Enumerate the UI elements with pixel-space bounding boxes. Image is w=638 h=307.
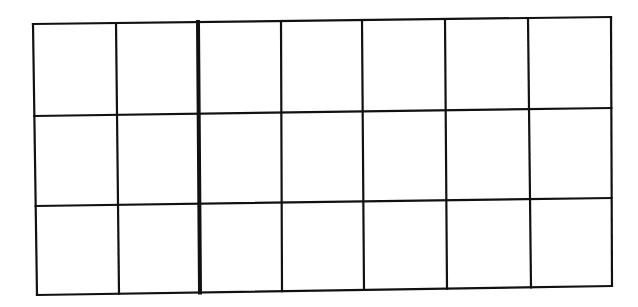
grid-thick-divider (198, 22, 200, 292)
grid-bottom-border (37, 286, 612, 295)
grid-diagram (0, 0, 638, 307)
grid-column-divider (362, 20, 364, 290)
grid-svg (0, 0, 638, 307)
grid-column-divider (281, 21, 282, 291)
grid-column-divider (116, 23, 119, 294)
grid-row-divider (34, 108, 611, 116)
grid-left-border (33, 24, 37, 295)
grid-top-border (33, 17, 611, 24)
grid-right-border (611, 17, 612, 286)
grid-column-divider (445, 19, 447, 289)
grid-column-divider (528, 18, 531, 287)
grid-row-divider (36, 198, 612, 206)
